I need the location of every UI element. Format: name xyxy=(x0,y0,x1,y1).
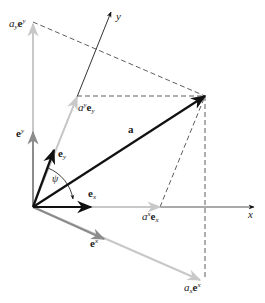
ex-contravariant-arrow xyxy=(33,207,104,239)
dash-axex-cov-to-a xyxy=(160,96,205,207)
diagram-canvas: x y a ψ ex ey ey ex axex ayey axex ayey xyxy=(0,0,265,303)
ex-cov-sub: x xyxy=(93,193,96,201)
ax-ex-contravariant-component-label: axex xyxy=(184,282,201,295)
ex-contravariant-label: ex xyxy=(90,238,98,249)
ey-cov-sub: y xyxy=(63,153,66,161)
x-axis-label: x xyxy=(248,209,253,220)
ay-ey-contravariant-component-label: ayey xyxy=(9,18,26,31)
ey-covariant-label: ey xyxy=(58,148,66,161)
y-axis-label: y xyxy=(116,11,121,22)
psi-label: ψ xyxy=(52,174,58,184)
ex-con-sup: x xyxy=(95,237,98,245)
ax-ex-vec-sup: x xyxy=(198,281,201,289)
ex-covariant-label: ex xyxy=(88,188,96,201)
ayey-covariant-component-label: ayey xyxy=(78,102,95,115)
diagram-svg xyxy=(0,0,265,303)
axex-vec-sub: x xyxy=(156,216,159,224)
ayey-vec-sub: y xyxy=(92,107,95,115)
ay-ey-vec-sup: y xyxy=(23,17,26,25)
vector-a-label: a xyxy=(128,124,134,135)
ey-con-sup: y xyxy=(21,127,24,135)
ey-contravariant-label: ey xyxy=(16,128,24,139)
axex-covariant-component-label: axex xyxy=(142,211,159,224)
dash-ayey-to-a xyxy=(33,22,205,96)
ey-covariant-arrow xyxy=(33,150,54,207)
